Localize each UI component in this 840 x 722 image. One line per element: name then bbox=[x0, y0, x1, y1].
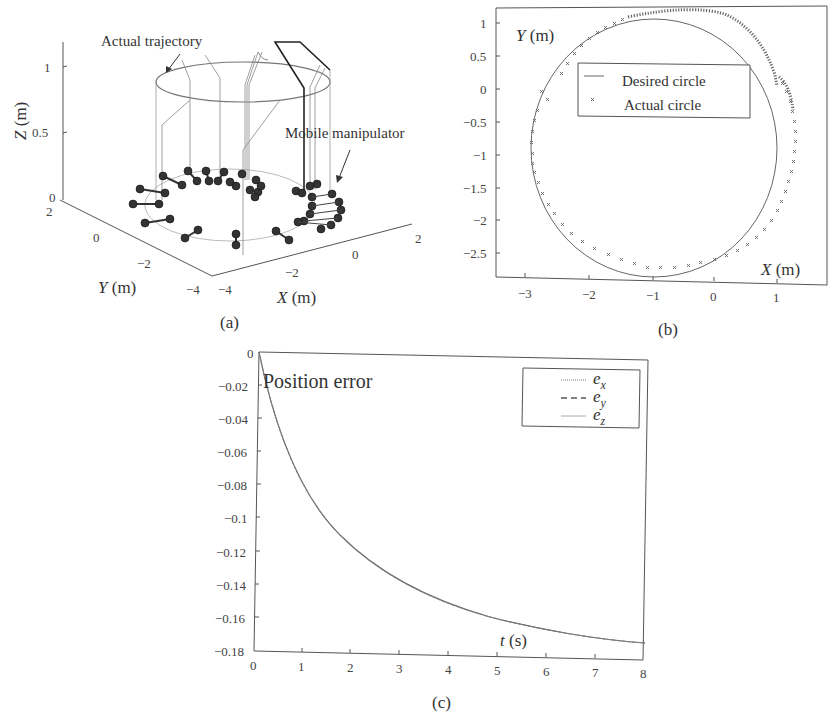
caption-c: (c) bbox=[432, 693, 451, 712]
x-tick: 0 bbox=[710, 289, 717, 304]
y-tick: 2 bbox=[46, 204, 53, 219]
panel-c-position-error: 0 −0.02 −0.04 −0.06 −0.08 −0.1 −0.12 −0.… bbox=[214, 346, 648, 712]
caption-b: (b) bbox=[658, 320, 678, 339]
legend-c: ex ey ez bbox=[522, 368, 640, 428]
y-tick: 0 bbox=[247, 346, 254, 361]
x-tick: 2 bbox=[415, 231, 422, 246]
x-tick: 3 bbox=[396, 661, 403, 676]
y-tick: −0.5 bbox=[463, 115, 487, 130]
arrow-icon bbox=[168, 54, 180, 70]
legend-actual-circle: Actual circle bbox=[624, 97, 701, 113]
legend-b: Desired circle Actual circle bbox=[578, 63, 750, 118]
y-tick: −0.18 bbox=[214, 644, 244, 659]
x-tick: 8 bbox=[640, 666, 647, 681]
y-tick: −0.16 bbox=[215, 611, 246, 626]
x-axis-label: X (m) bbox=[760, 260, 800, 279]
y-axis-label: Y (m) bbox=[516, 26, 554, 45]
x-axis-label: X (m) bbox=[276, 288, 316, 307]
x-axis-label: t (s) bbox=[500, 631, 527, 650]
y-tick: −0.14 bbox=[216, 578, 247, 593]
y-tick: −2 bbox=[137, 256, 151, 271]
y-tick: 0 bbox=[93, 230, 100, 245]
y-tick: −0.12 bbox=[216, 545, 246, 560]
arrow-head-icon bbox=[336, 175, 343, 183]
y-tick: −2.5 bbox=[463, 246, 487, 261]
desired-circle-line bbox=[531, 19, 777, 277]
x-axis bbox=[212, 224, 412, 276]
z-axis-label: Z (m) bbox=[11, 102, 30, 140]
panel-b-xy-plot: −3 −2 −1 0 1 1 0.5 0 −0.5 −1 −1.5 −2 −2.… bbox=[463, 6, 827, 339]
legend-desired-circle: Desired circle bbox=[622, 73, 706, 89]
y-tick: −2 bbox=[473, 213, 487, 228]
y-axis-label: Y (m) bbox=[98, 278, 136, 297]
x-tick: 4 bbox=[445, 662, 452, 677]
x-tick: 0 bbox=[250, 658, 257, 673]
y-tick: −0.06 bbox=[217, 445, 248, 460]
y-tick: −1 bbox=[473, 148, 487, 163]
x-tick: −2 bbox=[582, 287, 596, 302]
z-tick: 0 bbox=[49, 190, 56, 205]
x-tick: 1 bbox=[298, 659, 305, 674]
caption-a: (a) bbox=[220, 313, 239, 332]
y-tick: −4 bbox=[186, 282, 200, 297]
y-tick: −0.08 bbox=[217, 478, 247, 493]
chart-title: Position error bbox=[263, 370, 373, 392]
annotation-mobile-manipulator: Mobile manipulator bbox=[285, 125, 405, 141]
y-tick: −0.04 bbox=[218, 412, 249, 427]
y-tick: 1 bbox=[480, 16, 487, 31]
y-tick: 0.5 bbox=[470, 49, 486, 64]
x-tick: −3 bbox=[518, 286, 532, 301]
x-tick: 5 bbox=[494, 663, 501, 678]
x-tick: 6 bbox=[543, 664, 550, 679]
x-tick: 0 bbox=[352, 247, 359, 262]
x-tick: −4 bbox=[218, 282, 232, 297]
mobile-base-markers bbox=[129, 167, 345, 249]
y-tick: −0.1 bbox=[224, 511, 248, 526]
y-tick: −0.02 bbox=[218, 379, 248, 394]
svg-text:Z (m): Z (m) bbox=[11, 102, 30, 140]
arrow-icon bbox=[339, 150, 350, 178]
x-tick: −1 bbox=[646, 288, 660, 303]
annotation-actual-trajectory: Actual trajectory bbox=[101, 33, 203, 49]
x-tick: 1 bbox=[773, 290, 780, 305]
y-tick: −1.5 bbox=[463, 181, 487, 196]
x-tick: −2 bbox=[285, 265, 299, 280]
actual-circle-markers bbox=[530, 18, 797, 269]
x-tick: 7 bbox=[592, 665, 599, 680]
x-tick: 2 bbox=[347, 660, 354, 675]
panel-a-3d-plot: 1 0.5 0 2 0 −2 −4 −4 −2 0 2 Z (m) Y (m) … bbox=[11, 33, 422, 332]
y-tick: 0 bbox=[480, 82, 487, 97]
z-tick: 1 bbox=[44, 60, 51, 75]
z-tick: 0.5 bbox=[32, 125, 48, 140]
